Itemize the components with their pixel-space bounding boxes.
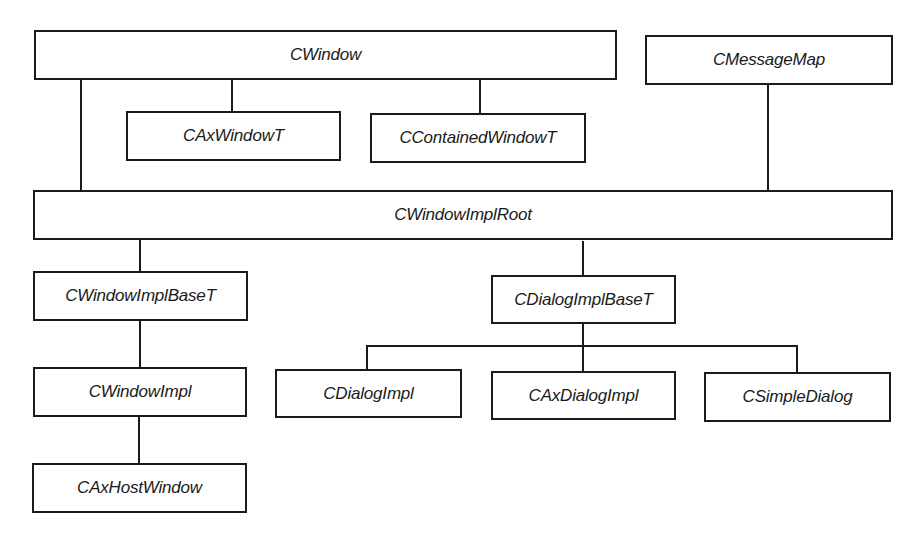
node-label: CSimpleDialog: [743, 387, 853, 407]
node-cdialogimplbaset: CDialogImplBaseT: [491, 275, 676, 324]
node-cwindowimplroot: CWindowImplRoot: [33, 190, 893, 240]
node-label: CContainedWindowT: [399, 128, 556, 148]
node-label: CAxDialogImpl: [529, 386, 639, 406]
edge-bus-csimpledialog: [796, 347, 798, 373]
node-cwindow: CWindow: [34, 30, 617, 80]
edge-cwindowimplroot-cdialogimplbaset: [582, 241, 584, 276]
edge-cmessagemap-cwindowimplroot: [767, 83, 769, 194]
node-csimpledialog: CSimpleDialog: [704, 372, 891, 422]
node-cwindowimpl: CWindowImpl: [33, 367, 247, 417]
node-label: CWindowImplBaseT: [65, 286, 216, 306]
node-label: CDialogImpl: [323, 384, 413, 404]
node-caxwindowt: CAxWindowT: [126, 111, 341, 161]
node-caxhostwindow: CAxHostWindow: [32, 463, 247, 513]
edge-cwindow-cwindowimplroot: [80, 78, 82, 191]
edge-cwindowimplroot-cwindowimplbaset: [139, 237, 141, 272]
node-label: CDialogImplBaseT: [514, 290, 653, 310]
edge-cwindowimpl-caxhostwindow: [138, 415, 140, 464]
node-ccontainedwindowt: CContainedWindowT: [370, 113, 586, 163]
node-label: CAxHostWindow: [77, 478, 202, 498]
edge-cwindow-caxwindowt: [231, 78, 233, 112]
node-cwindowimplbaset: CWindowImplBaseT: [33, 271, 248, 321]
node-label: CAxWindowT: [183, 126, 284, 146]
node-label: CWindowImplRoot: [394, 205, 532, 225]
node-caxdialogimpl: CAxDialogImpl: [491, 371, 676, 420]
edge-cwindowimplbaset-cwindowimpl: [139, 319, 141, 368]
node-cmessagemap: CMessageMap: [645, 35, 893, 85]
node-cdialogimpl: CDialogImpl: [275, 369, 462, 418]
node-label: CWindow: [290, 45, 361, 65]
node-label: CWindowImpl: [89, 382, 192, 402]
edge-cwindow-ccontainedwindowt: [479, 78, 481, 114]
class-hierarchy-diagram: CWindow CAxWindowT CContainedWindowT CMe…: [0, 0, 923, 536]
node-label: CMessageMap: [713, 50, 825, 70]
edge-bus-cdialogimpl: [366, 345, 368, 370]
edge-dialog-bus: [366, 345, 798, 347]
